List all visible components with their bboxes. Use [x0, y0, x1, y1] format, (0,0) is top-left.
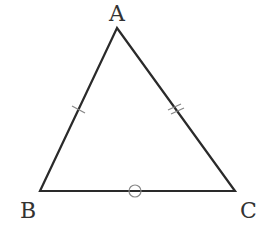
vertex-label-b: B	[20, 198, 36, 223]
vertex-label-c: C	[240, 198, 257, 223]
vertex-label-a: A	[108, 1, 126, 26]
triangle-abc	[40, 28, 235, 191]
triangle-diagram: A B C	[0, 0, 269, 235]
